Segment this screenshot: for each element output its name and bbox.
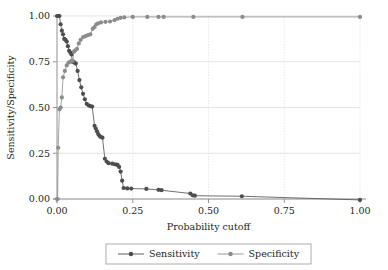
data-point [71,59,75,63]
data-point [77,41,81,45]
data-point [240,194,244,198]
legend-label-sensitivity: Sensitivity [149,248,200,259]
chart-figure: 0.000.250.500.751.000.000.250.500.751.00… [0,0,388,270]
x-axis-title: Probability cutoff [167,221,252,232]
data-point [358,15,362,19]
data-point [119,16,123,20]
data-point [83,97,87,101]
data-point [191,15,195,19]
data-point [63,69,67,73]
data-point [358,198,362,202]
data-point [59,22,63,26]
data-point [129,186,133,190]
data-point [193,194,197,198]
y-tick-label: 0.75 [29,56,50,67]
y-axis-title: Sensitivity/Specificity [5,55,16,160]
y-tick-label: 0.00 [29,193,50,204]
legend-label-specificity: Specificity [249,248,300,259]
legend-marker-specificity [228,252,232,256]
data-point [103,20,107,24]
data-point [65,40,69,44]
data-point [159,188,163,192]
x-tick-label: 0.50 [198,205,219,216]
y-tick-label: 0.25 [29,148,50,159]
data-point [120,179,124,183]
data-point [56,146,60,150]
axes [53,15,366,203]
grid-lines [57,16,360,199]
data-point [122,15,126,19]
data-point [106,161,110,165]
data-point [99,20,103,24]
data-point [90,104,94,108]
legend: SensitivitySpecificity [106,244,311,264]
data-point [57,14,61,18]
data-point [144,187,148,191]
data-point [60,95,64,99]
x-tick-label: 1.00 [349,205,370,216]
data-point [117,165,121,169]
data-point [59,105,63,109]
data-point [81,92,85,96]
data-point [75,47,79,51]
sensitivity-specificity-chart: 0.000.250.500.751.000.000.250.500.751.00… [0,0,388,270]
data-point [125,186,129,190]
series-line [57,16,360,200]
data-point [77,78,81,82]
data-point [156,15,160,19]
data-point [66,44,70,48]
data-point [88,32,92,36]
x-tick-label: 0.00 [46,205,67,216]
data-point [108,19,112,23]
x-tick-label: 0.75 [274,205,295,216]
data-point [122,186,126,190]
data-point [240,15,244,19]
x-tick-label: 0.25 [122,205,143,216]
data-point [56,197,60,201]
y-tick-label: 0.50 [29,102,50,113]
legend-marker-sensitivity [129,252,133,256]
y-tick-label: 1.00 [29,10,50,21]
data-point [100,136,104,140]
data-point [145,15,149,19]
data-point [162,15,166,19]
data-point [60,29,64,33]
data-point [79,85,83,89]
data-point [61,75,65,79]
data-point [119,169,123,173]
data-point [76,69,80,73]
data-point [61,32,65,36]
data-point [131,15,135,19]
